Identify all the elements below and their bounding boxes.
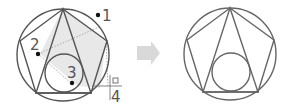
left-construction: 1 2 3 4	[17, 7, 122, 106]
step-label-2: 2	[30, 36, 40, 54]
step-label-4: 4	[111, 88, 121, 106]
diagram-canvas: 1 2 3 4	[0, 0, 293, 110]
right-result	[184, 8, 276, 100]
inscribed-circle	[212, 53, 250, 91]
outer-circle	[184, 8, 276, 100]
step-label-3: 3	[67, 64, 77, 82]
right-angle-marker	[113, 78, 118, 83]
inner-triangle	[203, 8, 258, 92]
point-1	[96, 13, 100, 17]
step-label-1: 1	[102, 7, 112, 25]
right-arrow-icon	[137, 41, 160, 65]
